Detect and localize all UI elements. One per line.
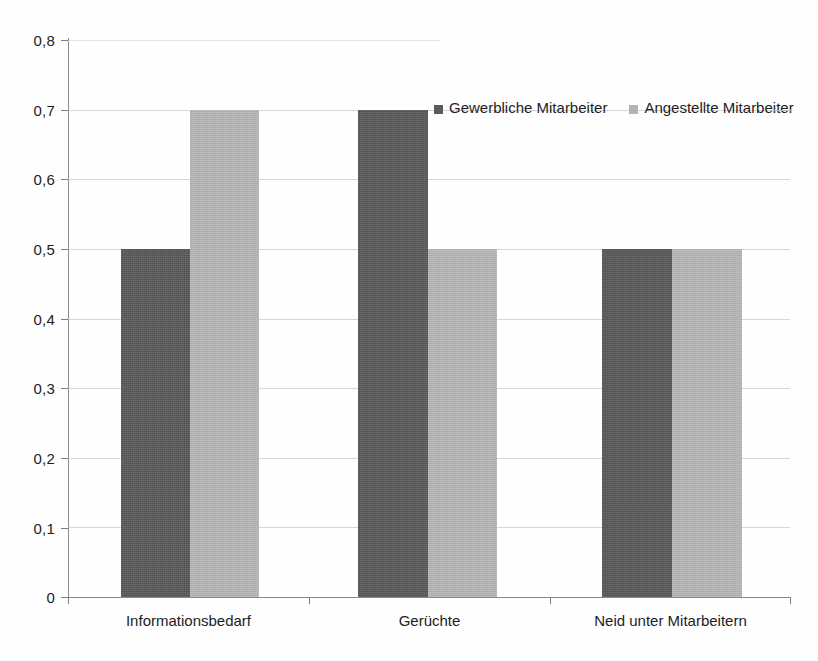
y-tick-mark <box>61 319 68 320</box>
gridline-0-6 <box>68 179 790 180</box>
y-tick-label: 0,7 <box>3 103 55 118</box>
legend-trailing-rule <box>772 110 792 111</box>
x-axis-baseline <box>68 597 790 598</box>
x-tick-label-neid-unter-mitarbeitern: Neid unter Mitarbeitern <box>550 612 791 629</box>
y-tick-label: 0,8 <box>3 33 55 48</box>
y-tick-label: 0,4 <box>3 312 55 327</box>
y-tick-mark <box>61 597 68 598</box>
y-tick-mark <box>61 249 68 250</box>
y-tick-label: 0,1 <box>3 521 55 536</box>
plot-area <box>68 40 790 597</box>
y-tick-mark <box>61 458 68 459</box>
bar-neid-gewerbliche <box>602 249 672 597</box>
bar-chart: 0,8 0,7 0,6 0,5 0,4 0,3 0,2 0,1 0 <box>0 0 818 661</box>
x-tick-label-informationsbedarf: Informationsbedarf <box>68 612 309 629</box>
legend-label: Gewerbliche Mitarbeiter <box>449 100 607 116</box>
chart-legend: Gewerbliche Mitarbeiter Angestellte Mita… <box>434 100 794 116</box>
y-tick-mark <box>61 388 68 389</box>
y-tick-label: 0,3 <box>3 381 55 396</box>
x-tick-mark <box>68 597 69 604</box>
legend-label: Angestellte Mitarbeiter <box>644 100 793 116</box>
y-tick-mark <box>61 40 68 41</box>
legend-swatch-icon <box>434 105 443 114</box>
y-tick-mark <box>61 110 68 111</box>
y-tick-label: 0,5 <box>3 242 55 257</box>
x-tick-mark <box>550 597 551 604</box>
y-tick-label: 0,6 <box>3 172 55 187</box>
bar-geruechte-angestellte <box>428 249 497 597</box>
legend-entry-gewerbliche-mitarbeiter: Gewerbliche Mitarbeiter <box>434 100 607 116</box>
bar-informationsbedarf-angestellte <box>190 110 259 597</box>
x-tick-mark <box>309 597 310 604</box>
bar-informationsbedarf-gewerbliche <box>121 249 190 597</box>
x-tick-label-geruechte: Gerüchte <box>309 612 550 629</box>
legend-entry-angestellte-mitarbeiter: Angestellte Mitarbeiter <box>629 100 793 116</box>
legend-swatch-icon <box>629 105 638 114</box>
bar-neid-angestellte <box>672 249 742 597</box>
gridline-0-8 <box>68 40 440 41</box>
y-tick-mark <box>61 528 68 529</box>
y-axis-tick-labels: 0,8 0,7 0,6 0,5 0,4 0,3 0,2 0,1 0 <box>0 0 55 661</box>
y-tick-label: 0 <box>3 590 55 605</box>
x-tick-mark <box>790 597 791 604</box>
bar-geruechte-gewerbliche <box>358 110 428 597</box>
y-tick-label: 0,2 <box>3 451 55 466</box>
y-tick-mark <box>61 179 68 180</box>
